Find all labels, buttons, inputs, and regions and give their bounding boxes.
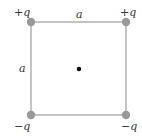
charge-label-top-right: +q (120, 7, 136, 18)
side-label-left: a (19, 63, 26, 74)
center-point (77, 67, 82, 72)
charge-bottom-right (122, 111, 130, 119)
charge-top-right (122, 18, 130, 26)
charge-label-bottom-right: −q (121, 121, 137, 132)
charge-label-top-left: +q (14, 7, 30, 18)
charge-label-bottom-left: −q (14, 121, 30, 132)
side-label-top: a (76, 9, 83, 20)
charge-bottom-left (27, 111, 35, 119)
charge-square-diagram: +q +q −q −q a a (0, 0, 142, 136)
charge-top-left (27, 18, 35, 26)
